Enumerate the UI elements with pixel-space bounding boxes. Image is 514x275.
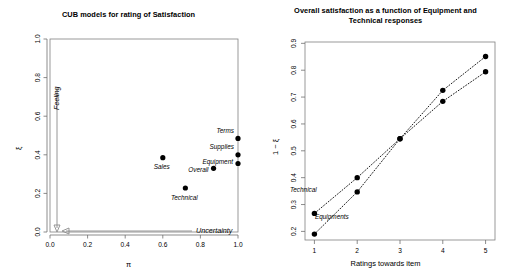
data-point-technical-5 — [483, 54, 488, 59]
x-tick-label-right: 3 — [398, 247, 402, 254]
y-tick-label-left: 0.2 — [34, 188, 41, 197]
data-point-technical-4 — [440, 88, 445, 93]
uncertainty-annotation: Uncertainty — [196, 226, 232, 235]
x-tick-label-left: 0.4 — [121, 241, 130, 248]
panel-satisfaction-lines: Overall satisfaction as a function of Eq… — [257, 0, 514, 275]
data-point-technical-2 — [355, 175, 360, 180]
y-tick-label-right: 0.4 — [290, 173, 297, 182]
data-point-equipments-2 — [355, 189, 360, 194]
y-tick-label-right: 0.3 — [290, 200, 297, 209]
y-tick-label-left: 0.0 — [34, 227, 41, 236]
series-label-equipments: Equipments — [315, 213, 349, 220]
data-point-equipments-3 — [397, 136, 402, 141]
point-label-technical: Technical — [171, 194, 198, 201]
y-tick-label-left: 0.4 — [34, 150, 41, 159]
y-tick-label-right: 0.8 — [290, 65, 297, 74]
series-line-equipments — [314, 72, 485, 234]
data-point-technical — [183, 185, 188, 190]
x-tick-label-right: 2 — [355, 247, 359, 254]
y-axis-label-left: ξ — [14, 147, 23, 150]
y-tick-label-right: 0.7 — [290, 92, 297, 101]
point-label-sales: Sales — [154, 163, 171, 170]
series-line-technical — [314, 57, 485, 214]
x-axis-label-left: π — [0, 260, 257, 269]
x-axis-label-right: Ratings towards item — [257, 259, 514, 268]
x-tick-label-left: 0.8 — [196, 241, 205, 248]
data-point-terms — [235, 136, 240, 141]
data-point-sales — [160, 155, 165, 160]
y-tick-label-left: 0.8 — [34, 73, 41, 82]
point-label-equipment: Equipment — [202, 158, 233, 166]
plot-frame-left — [50, 39, 238, 232]
point-label-supplies: Supplies — [209, 143, 234, 151]
x-tick-label-left: 0.2 — [83, 241, 92, 248]
figure-container: CUB models for rating of Satisfaction 0.… — [0, 0, 514, 275]
data-point-overall — [211, 166, 216, 171]
y-tick-label-right: 0.2 — [290, 226, 297, 235]
x-tick-label-left: 0.6 — [158, 241, 167, 248]
y-tick-label-left: 0.6 — [34, 111, 41, 120]
point-label-terms: Terms — [216, 127, 234, 134]
data-point-equipments-5 — [483, 69, 488, 74]
data-point-equipments-4 — [440, 99, 445, 104]
y-tick-label-right: 0.5 — [290, 146, 297, 155]
data-point-equipments-1 — [312, 231, 317, 236]
data-point-equipment — [235, 161, 240, 166]
x-tick-label-left: 1.0 — [233, 241, 242, 248]
line-plot-area: 123450.20.30.40.50.60.70.80.9 — [257, 0, 514, 275]
x-tick-label-left: 0.0 — [45, 241, 54, 248]
y-axis-label-right: 1 − ξ — [271, 139, 280, 155]
x-tick-label-right: 1 — [313, 247, 317, 254]
x-tick-label-right: 5 — [484, 247, 488, 254]
series-label-technical: Technical — [290, 186, 317, 193]
y-tick-label-right: 0.6 — [290, 119, 297, 128]
data-point-supplies — [235, 152, 240, 157]
point-label-overall: Overall — [188, 166, 209, 173]
feeling-annotation: Feeling — [52, 86, 61, 110]
x-tick-label-right: 4 — [441, 247, 445, 254]
y-tick-label-left: 1.0 — [34, 34, 41, 43]
y-tick-label-right: 0.9 — [290, 38, 297, 47]
panel-cub-scatter: CUB models for rating of Satisfaction 0.… — [0, 0, 257, 275]
